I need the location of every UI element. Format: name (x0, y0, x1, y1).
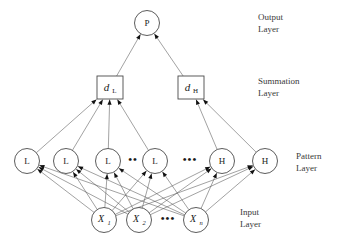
edge-arrowhead (213, 173, 217, 179)
edge-H2-to-dH (203, 100, 256, 153)
layer-caption-summation-line1: Summation (258, 76, 300, 86)
summation-node-dL[interactable]: dL (97, 76, 123, 99)
layer-caption-pattern: PatternLayer (296, 151, 322, 173)
edge-arrowhead (76, 169, 81, 174)
output-node-P[interactable]: P (135, 11, 160, 36)
input-node-label-main: X (189, 213, 197, 224)
pattern-node-L4[interactable]: L (143, 149, 168, 174)
layer-caption-summation-line2: Layer (258, 88, 279, 98)
pattern-node-label: L (63, 156, 69, 166)
layer-caption-output-line2: Layer (258, 24, 279, 34)
summation-node-label-main: d (104, 81, 110, 93)
edge-arrowhead (119, 168, 124, 173)
edge-arrowhead (154, 34, 159, 39)
layer-caption-output-line1: Output (258, 12, 284, 22)
pattern-node-L2[interactable]: L (54, 149, 79, 174)
layer-caption-pattern-line1: Pattern (296, 151, 322, 161)
edge-arrowhead (105, 174, 109, 179)
node-group-pattern-layer: LLLLHH••••• (15, 149, 278, 174)
edge-L4-to-dL (117, 100, 148, 151)
layer-caption-pattern-line2: Layer (296, 163, 317, 173)
edge-Xn-to-H2 (206, 169, 256, 211)
edge-L1-to-dL (36, 99, 96, 152)
edge-X1-to-L2 (73, 172, 97, 210)
layer-caption-summation: SummationLayer (258, 76, 300, 98)
node-group-input-layer: X1X2Xn••• (92, 208, 209, 233)
pattern-node-H1[interactable]: H (210, 149, 235, 174)
edge-X2-to-L3 (114, 173, 133, 209)
edge-H1-to-dH (196, 100, 217, 150)
input-node-Xn[interactable]: Xn (184, 208, 209, 233)
input-node-X1[interactable]: X1 (92, 208, 117, 233)
output-node-label: P (144, 18, 149, 28)
edge-dH-to-P (154, 34, 183, 76)
edge-arrowhead (162, 172, 167, 177)
edge-arrowhead (136, 34, 140, 40)
pattern-node-label: L (24, 156, 30, 166)
edge-Xn-to-H1 (201, 173, 217, 209)
edge-arrowhead (98, 100, 102, 106)
layer-caption-input: InputLayer (240, 207, 261, 229)
summation-node-box (178, 76, 204, 99)
input-node-label-subscript: 1 (107, 219, 110, 226)
edge-L3-to-dL (108, 100, 109, 149)
neural-network-diagram: P dLdH LLLLHH••••• X1X2Xn••• OutputLayer… (0, 0, 348, 241)
edge-X1-to-L1 (37, 169, 94, 212)
edge-arrowhead (117, 100, 121, 106)
input-node-label-subscript: n (199, 219, 202, 226)
layer-caption-input-line1: Input (240, 207, 259, 217)
edge-group-summation-to-output (117, 34, 184, 76)
input-node-X2[interactable]: X2 (127, 208, 152, 233)
pattern-ellipsis-dots-L: •• (128, 153, 138, 165)
summation-node-label-subscript: L (112, 87, 116, 95)
edge-arrowhead (73, 172, 78, 177)
input-ellipsis-dots-X: ••• (161, 212, 176, 224)
edge-Xn-to-L2 (78, 166, 185, 214)
edge-Xn-to-L4 (162, 172, 188, 210)
edge-arrowhead (107, 100, 111, 105)
pattern-node-L1[interactable]: L (15, 149, 40, 174)
input-node-label-main: X (132, 213, 140, 224)
edge-X1-to-L4 (112, 171, 146, 211)
pattern-node-label: H (219, 156, 226, 166)
edge-group-pattern-to-summation (36, 99, 256, 152)
edge-arrowhead (78, 166, 84, 170)
layer-caption-input-line2: Layer (240, 219, 261, 229)
edge-arrowhead (196, 100, 200, 106)
pattern-node-label: L (105, 156, 111, 166)
node-group-summation-layer: dLdH (97, 76, 204, 99)
pattern-node-label: H (262, 156, 269, 166)
summation-node-dH[interactable]: dH (178, 76, 204, 99)
pattern-node-label: L (152, 156, 158, 166)
summation-node-label-subscript: H (193, 87, 198, 95)
layer-caption-group: OutputLayerSummationLayerPatternLayerInp… (240, 12, 322, 229)
edge-arrowhead (114, 173, 118, 179)
summation-node-box (97, 76, 123, 99)
edge-arrowhead (148, 174, 152, 180)
summation-node-label-main: d (185, 81, 191, 93)
layer-caption-output: OutputLayer (258, 12, 284, 34)
edge-X2-to-L2 (76, 169, 129, 212)
pattern-ellipsis-dots-LH: ••• (183, 153, 198, 165)
edge-arrowhead (248, 167, 254, 171)
pattern-node-L3[interactable]: L (96, 149, 121, 174)
diagram-page: P dLdH LLLLHH••••• X1X2Xn••• OutputLayer… (0, 0, 348, 241)
pattern-node-H2[interactable]: H (253, 149, 278, 174)
node-group-output-layer: P (135, 11, 160, 36)
input-node-label-main: X (97, 213, 105, 224)
edge-dL-to-P (117, 34, 141, 76)
